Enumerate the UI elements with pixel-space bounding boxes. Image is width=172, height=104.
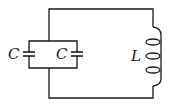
inductor-symbol bbox=[146, 27, 161, 86]
wire-top bbox=[49, 9, 153, 41]
wire-bottom bbox=[49, 68, 153, 98]
capacitor-left-symbol bbox=[23, 52, 35, 56]
wire-capacitor-box bbox=[29, 41, 77, 68]
capacitor-right-symbol bbox=[71, 52, 83, 56]
capacitor-left-label: C bbox=[8, 45, 20, 63]
capacitor-right-label: C bbox=[56, 45, 68, 63]
inductor-label: L bbox=[130, 47, 141, 65]
lc-circuit-diagram: C C L bbox=[0, 0, 172, 104]
